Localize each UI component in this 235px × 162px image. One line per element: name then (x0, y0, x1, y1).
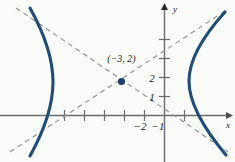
x-axis-label: x (225, 120, 230, 130)
hyperbola-right-branch (189, 12, 226, 155)
y-axis-label: y (172, 4, 177, 14)
graph-canvas: (−3, 2) −2 −1 1 2 y x (0, 0, 235, 162)
x-tick-label-minus-one: −1 (152, 120, 165, 132)
x-tick-label-minus-two: −2 (134, 120, 147, 132)
y-tick-label-one: 1 (149, 91, 155, 103)
y-axis-arrow-icon (161, 3, 168, 10)
center-point-label: (−3, 2) (107, 53, 136, 65)
hyperbola-graph-figure: (−3, 2) −2 −1 1 2 y x (0, 0, 235, 162)
x-axis-arrow-icon (226, 112, 233, 119)
y-axis (161, 3, 168, 162)
center-point-marker (118, 78, 125, 85)
y-tick-label-two: 2 (149, 72, 155, 84)
